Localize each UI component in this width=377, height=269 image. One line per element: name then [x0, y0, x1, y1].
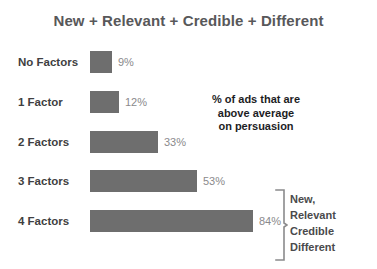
chart-title: New + Relevant + Credible + Different: [0, 12, 377, 29]
bar-fill: [90, 170, 197, 192]
table-row: 2 Factors 33%: [0, 130, 377, 154]
bar-value-label: 53%: [203, 169, 225, 193]
bracket-annotation-group: New, Relevant Credible Different: [274, 188, 377, 262]
center-annotation-line: above average: [186, 107, 326, 121]
category-label: 3 Factors: [18, 169, 69, 193]
category-label: 4 Factors: [18, 209, 69, 233]
bar-fill: [90, 131, 158, 153]
category-label: No Factors: [18, 50, 78, 74]
category-label: 2 Factors: [18, 130, 69, 154]
bar-fill: [90, 91, 119, 113]
bracket-annotation-line: Relevant: [290, 207, 336, 223]
bar-value-label: 12%: [125, 90, 147, 114]
category-label: 1 Factor: [18, 90, 63, 114]
curly-bracket-icon: [274, 188, 288, 262]
bracket-annotation-line: New,: [290, 191, 336, 207]
center-annotation: % of ads that are above average on persu…: [186, 93, 326, 134]
bar-chart: New + Relevant + Credible + Different No…: [0, 0, 377, 269]
table-row: No Factors 9%: [0, 50, 377, 74]
center-annotation-line: % of ads that are: [186, 93, 326, 107]
bracket-annotation-line: Different: [290, 239, 336, 255]
bar-value-label: 33%: [164, 130, 186, 154]
bar-value-label: 9%: [118, 50, 134, 74]
bar-fill: [90, 210, 253, 232]
bar-fill: [90, 51, 112, 73]
bracket-annotation-text: New, Relevant Credible Different: [290, 191, 336, 255]
center-annotation-line: on persuasion: [186, 120, 326, 134]
bracket-annotation-line: Credible: [290, 223, 336, 239]
